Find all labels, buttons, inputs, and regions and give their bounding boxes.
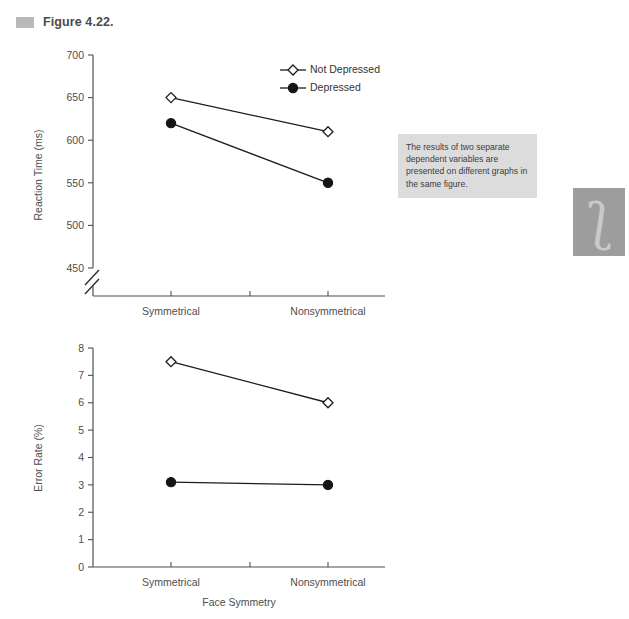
data-point-marker bbox=[323, 480, 332, 489]
data-series-reaction-time bbox=[166, 93, 333, 188]
x-axis-tick-labels-reaction-time: SymmetricalNonsymmetrical bbox=[142, 305, 366, 317]
y-axis-title-reaction-time: Reaction Time (ms) bbox=[32, 129, 44, 220]
series-line-depressed bbox=[171, 482, 328, 485]
y-tick-label: 0 bbox=[78, 561, 84, 573]
y-tick-label: 7 bbox=[78, 369, 84, 381]
y-axis-ticks-reaction-time bbox=[88, 55, 93, 268]
x-tick-label: Nonsymmetrical bbox=[290, 576, 365, 588]
y-tick-label: 500 bbox=[66, 219, 84, 231]
series-line-depressed bbox=[171, 123, 328, 183]
y-tick-label: 450 bbox=[66, 262, 84, 274]
x-axis-title-error-rate: Face Symmetry bbox=[202, 596, 276, 608]
series-line-not-depressed bbox=[171, 362, 328, 403]
x-tick-label: Nonsymmetrical bbox=[290, 305, 365, 317]
y-axis-ticks-error-rate bbox=[88, 348, 93, 567]
x-tick-label: Symmetrical bbox=[142, 576, 200, 588]
y-tick-label: 650 bbox=[66, 91, 84, 103]
y-tick-label: 1 bbox=[78, 533, 84, 545]
legend-reaction-time: Not DepressedDepressed bbox=[280, 63, 380, 93]
legend-label: Not Depressed bbox=[310, 63, 380, 75]
y-axis-title-error-rate: Error Rate (%) bbox=[32, 424, 44, 492]
x-tick-label: Symmetrical bbox=[142, 305, 200, 317]
y-tick-label: 8 bbox=[78, 342, 84, 354]
x-axis-ticks-reaction-time bbox=[171, 291, 328, 296]
data-series-error-rate bbox=[166, 357, 333, 490]
data-point-marker bbox=[166, 357, 176, 367]
y-tick-label: 700 bbox=[66, 49, 84, 61]
chart-error-rate: 012345678 SymmetricalNonsymmetrical Erro… bbox=[0, 330, 629, 619]
x-axis-tick-labels-error-rate: SymmetricalNonsymmetrical bbox=[142, 576, 366, 588]
series-line-not-depressed bbox=[171, 98, 328, 132]
legend-marker bbox=[288, 65, 298, 75]
error-rate-plot: 012345678 SymmetricalNonsymmetrical Erro… bbox=[0, 330, 629, 619]
x-axis-ticks-error-rate bbox=[171, 562, 328, 567]
y-tick-label: 4 bbox=[78, 451, 84, 463]
data-point-marker bbox=[166, 93, 176, 103]
data-point-marker bbox=[323, 127, 333, 137]
y-tick-label: 5 bbox=[78, 424, 84, 436]
y-tick-label: 3 bbox=[78, 479, 84, 491]
flourish-icon: ʃ bbox=[592, 197, 606, 247]
y-axis-tick-labels-error-rate: 012345678 bbox=[78, 342, 84, 573]
legend-marker bbox=[288, 83, 297, 92]
y-tick-label: 6 bbox=[78, 396, 84, 408]
data-point-marker bbox=[323, 178, 332, 187]
data-point-marker bbox=[323, 398, 333, 408]
annotation-text: The results of two separate dependent va… bbox=[406, 141, 529, 190]
y-axis-tick-labels-reaction-time: 450500550600650700 bbox=[66, 49, 84, 274]
data-point-marker bbox=[166, 119, 175, 128]
data-point-marker bbox=[166, 478, 175, 487]
y-tick-label: 2 bbox=[78, 506, 84, 518]
decorative-margin-block: ʃ bbox=[573, 188, 625, 256]
y-tick-label: 600 bbox=[66, 134, 84, 146]
legend-label: Depressed bbox=[310, 81, 361, 93]
annotation-callout: The results of two separate dependent va… bbox=[398, 134, 537, 198]
y-tick-label: 550 bbox=[66, 177, 84, 189]
axis-break-icon bbox=[85, 270, 99, 294]
